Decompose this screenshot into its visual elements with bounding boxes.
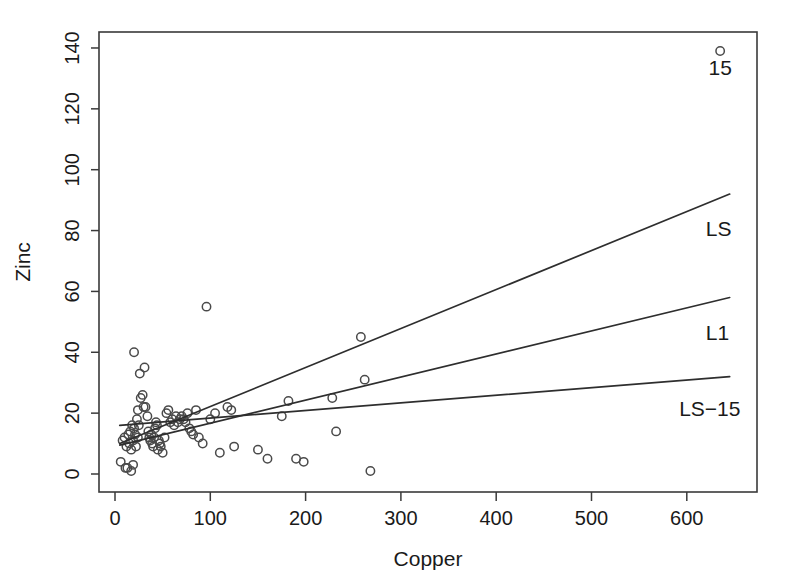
scatter-plot: 020406080100120140 0100200300400500600 L… (0, 0, 786, 587)
plot-frame (99, 32, 757, 492)
regression-label-ls-15: LS−15 (679, 397, 740, 420)
data-point (230, 442, 238, 450)
y-tick-label: 140 (61, 31, 83, 64)
data-point (130, 348, 138, 356)
x-axis-title: Copper (394, 547, 463, 570)
point-annotation-label: 15 (708, 56, 731, 79)
y-tick-label: 40 (61, 341, 83, 363)
x-tick-label: 200 (289, 507, 322, 529)
data-point (357, 333, 365, 341)
x-tick-label: 300 (384, 507, 417, 529)
y-tick-label: 60 (61, 280, 83, 302)
x-tick-label: 0 (109, 507, 120, 529)
data-point (198, 439, 206, 447)
x-tick-label: 400 (480, 507, 513, 529)
data-point (716, 47, 724, 55)
y-tick-label: 100 (61, 153, 83, 186)
data-point (140, 363, 148, 371)
y-tick-label: 120 (61, 92, 83, 125)
point-annotation-group: 15 (708, 56, 731, 79)
regression-label-ls: LS (706, 217, 732, 240)
chart-figure: 020406080100120140 0100200300400500600 L… (0, 0, 786, 587)
regression-label-l1: L1 (706, 321, 729, 344)
data-point (143, 412, 151, 420)
data-point (202, 302, 210, 310)
x-tick-label: 500 (575, 507, 608, 529)
regression-label-group: LSL1LS−15 (679, 217, 740, 420)
y-tick-label: 0 (61, 468, 83, 479)
regression-line-group (120, 194, 730, 445)
x-tick-label: 600 (670, 507, 703, 529)
data-point (254, 445, 262, 453)
data-point (211, 409, 219, 417)
regression-line-ls-15 (120, 377, 730, 426)
data-point (360, 375, 368, 383)
y-tick-label: 80 (61, 219, 83, 241)
y-axis-ticks: 020406080100120140 (61, 31, 99, 479)
x-axis-ticks: 0100200300400500600 (109, 492, 703, 529)
data-point (366, 467, 374, 475)
data-point (299, 458, 307, 466)
data-point (216, 449, 224, 457)
x-tick-label: 100 (194, 507, 227, 529)
data-point-group (117, 47, 725, 475)
data-point (263, 455, 271, 463)
y-tick-label: 20 (61, 402, 83, 424)
data-point (332, 427, 340, 435)
y-axis-title: Zinc (11, 242, 34, 282)
